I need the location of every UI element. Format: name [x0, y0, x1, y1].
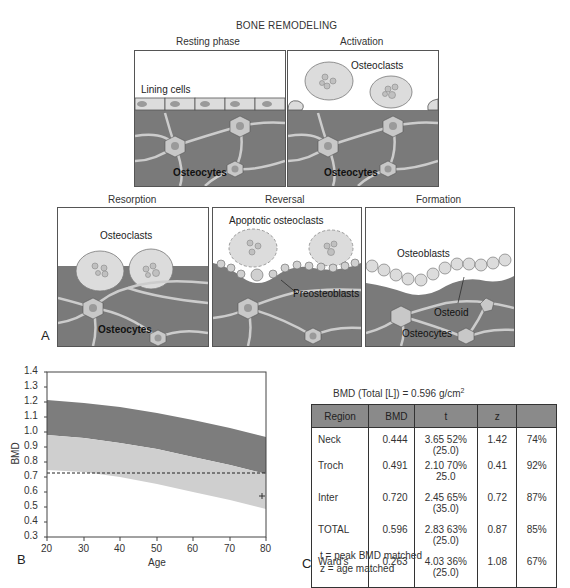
cell-pct: 85%	[517, 524, 557, 556]
cell-bmd: 0.491	[369, 460, 414, 492]
cell-pct: 92%	[517, 460, 557, 492]
label-lining-cells: Lining cells	[141, 84, 190, 95]
footnote-t: t = peak BMD matched	[320, 550, 422, 561]
cell-z: 0.72	[478, 492, 517, 524]
y-tick: 1.1	[24, 410, 38, 421]
cell-pct: 74%	[517, 428, 557, 460]
t-sub: (25.0)	[433, 567, 459, 578]
x-tick: 70	[224, 543, 235, 554]
cell-bmd: 0.720	[369, 492, 414, 524]
cell-t: 4.03 36%(25.0)	[414, 556, 478, 588]
y-axis-label: BMD	[10, 442, 21, 464]
y-tick: 0.8	[24, 455, 38, 466]
table-row: Troch 0.491 2.10 70%25.0 0.41 92%	[312, 460, 557, 492]
t-sub: 25.0	[436, 471, 455, 482]
label-osteoclasts: Osteoclasts	[351, 60, 403, 71]
y-tick: 1.3	[24, 380, 38, 391]
cell-pct: 67%	[517, 556, 557, 588]
cell-z: 1.08	[478, 556, 517, 588]
cell-region: Inter	[312, 492, 369, 524]
footnote-z: z = age matched	[320, 563, 394, 574]
formation-illustration	[366, 208, 514, 346]
x-tick: 50	[151, 543, 162, 554]
table-heading-sup: 2	[461, 387, 465, 394]
x-tick: 60	[187, 543, 198, 554]
phase-title-activation: Activation	[340, 36, 383, 47]
panel-activation: Osteoclasts Osteocytes	[287, 50, 439, 187]
phase-title-resorption: Resorption	[108, 194, 156, 205]
panel-resting: Lining cells Osteocytes	[134, 50, 286, 187]
resting-illustration	[135, 51, 285, 186]
table-heading-text: BMD (Total [L]) = 0.596 g/cm	[333, 388, 461, 399]
cell-z: 1.42	[478, 428, 517, 460]
activation-illustration	[288, 51, 438, 186]
x-axis-label: Age	[148, 557, 166, 568]
cell-t: 3.65 52%(25.0)	[414, 428, 478, 460]
cell-t: 2.10 70%25.0	[414, 460, 478, 492]
y-tick: 0.5	[24, 500, 38, 511]
cell-z: 0.41	[478, 460, 517, 492]
panel-reversal: Apoptotic osteoclasts Preosteoblasts	[212, 207, 362, 347]
y-tick: 1.4	[24, 365, 38, 376]
y-tick: 0.9	[24, 440, 38, 451]
phase-title-reversal: Reversal	[265, 194, 304, 205]
x-tick: 80	[260, 543, 271, 554]
table-row: Inter 0.720 2.45 65%(35.0) 0.72 87%	[312, 492, 557, 524]
col-bmd: BMD	[369, 405, 414, 428]
label-osteocytes: Osteocytes	[324, 167, 378, 178]
t-value: 3.65 52%	[425, 434, 467, 445]
col-pct	[517, 405, 557, 428]
t-value: 2.45 65%	[425, 492, 467, 503]
y-tick: 0.3	[24, 530, 38, 541]
panel-resorption: Osteoclasts Osteocytes	[57, 207, 209, 347]
label-apoptotic-osteoclasts: Apoptotic osteoclasts	[229, 215, 324, 226]
y-tick: 1.0	[24, 425, 38, 436]
label-osteocytes: Osteocytes	[173, 167, 227, 178]
cell-t: 2.45 65%(35.0)	[414, 492, 478, 524]
label-preosteoblasts: Preosteoblasts	[293, 288, 359, 299]
y-tick: 0.7	[24, 470, 38, 481]
t-sub: (25.0)	[433, 445, 459, 456]
panel-formation: Osteoblasts Osteoid Osteocytes	[365, 207, 515, 347]
t-value: 2.83 63%	[425, 524, 467, 535]
cell-z: 0.87	[478, 524, 517, 556]
t-sub: (25.0)	[433, 535, 459, 546]
col-z: z	[478, 405, 517, 428]
panel-letter-a: A	[41, 328, 50, 343]
cell-pct: 87%	[517, 492, 557, 524]
phase-title-formation: Formation	[416, 194, 461, 205]
panel-letter-b: B	[17, 552, 26, 567]
cell-region: Neck	[312, 428, 369, 460]
label-osteocytes: Osteocytes	[402, 328, 452, 339]
x-tick: 20	[41, 543, 52, 554]
x-tick: 30	[78, 543, 89, 554]
y-tick: 1.2	[24, 395, 38, 406]
t-value: 4.03 36%	[425, 556, 467, 567]
x-tick: 40	[114, 543, 125, 554]
y-tick: 0.4	[24, 515, 38, 526]
reversal-illustration	[213, 208, 361, 346]
table-heading: BMD (Total [L]) = 0.596 g/cm2	[333, 387, 464, 399]
table-header-row: Region BMD t z	[312, 405, 557, 428]
bmd-chart: 1.4 1.3 1.2 1.1 1.0 0.9 0.8 0.7 0.6 0.5 …	[0, 360, 300, 576]
label-osteocytes: Osteocytes	[98, 324, 152, 335]
phase-title-resting: Resting phase	[176, 36, 240, 47]
t-sub: (35.0)	[433, 503, 459, 514]
figure-title: BONE REMODELING	[236, 20, 337, 31]
t-value: 2.10 70%	[425, 460, 467, 471]
y-tick: 0.6	[24, 485, 38, 496]
panel-letter-c: C	[302, 556, 311, 571]
cell-t: 2.83 63%(25.0)	[414, 524, 478, 556]
label-osteoclasts: Osteoclasts	[100, 230, 152, 241]
label-osteoid: Osteoid	[434, 307, 468, 318]
col-t: t	[414, 405, 478, 428]
col-region: Region	[312, 405, 369, 428]
label-osteoblasts: Osteoblasts	[397, 248, 450, 259]
table-row: Neck 0.444 3.65 52%(25.0) 1.42 74%	[312, 428, 557, 460]
cell-region: Troch	[312, 460, 369, 492]
cell-bmd: 0.444	[369, 428, 414, 460]
